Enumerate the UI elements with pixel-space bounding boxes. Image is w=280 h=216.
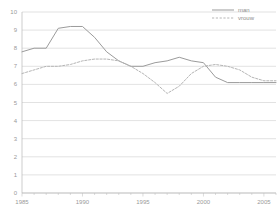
line-chart: 012345678910 19851990199520002005 manvro… <box>0 0 280 216</box>
y-axis-tick-labels: 012345678910 <box>10 9 17 196</box>
x-axis-tick-label: 1995 <box>136 199 150 205</box>
x-axis-tick-label: 1990 <box>76 199 90 205</box>
x-axis-tick-labels: 19851990199520002005 <box>15 199 271 205</box>
tickmarks-group <box>22 193 276 197</box>
y-axis-tick-label: 9 <box>14 27 18 33</box>
y-axis-tick-label: 1 <box>14 172 18 178</box>
y-axis-tick-label: 2 <box>14 154 18 160</box>
series-line-man <box>22 26 276 82</box>
chart-legend: manvrouw <box>212 7 255 21</box>
x-axis-tick-label: 1985 <box>15 199 29 205</box>
y-axis-tick-label: 6 <box>14 81 18 87</box>
y-axis-tick-label: 5 <box>14 100 18 106</box>
series-group <box>22 26 276 93</box>
legend-label-man: man <box>238 7 250 13</box>
x-axis-tick-label: 2000 <box>197 199 211 205</box>
x-axis-tick-label: 2005 <box>257 199 271 205</box>
y-axis-tick-label: 7 <box>14 63 18 69</box>
y-axis-tick-label: 10 <box>10 9 17 15</box>
y-axis-tick-label: 3 <box>14 136 18 142</box>
y-axis-tick-label: 8 <box>14 45 18 51</box>
legend-label-vrouw: vrouw <box>238 15 255 21</box>
gridlines-group <box>22 12 276 193</box>
y-axis-tick-label: 4 <box>14 118 18 124</box>
chart-canvas: 012345678910 19851990199520002005 manvro… <box>0 0 280 216</box>
y-axis-tick-label: 0 <box>14 190 18 196</box>
